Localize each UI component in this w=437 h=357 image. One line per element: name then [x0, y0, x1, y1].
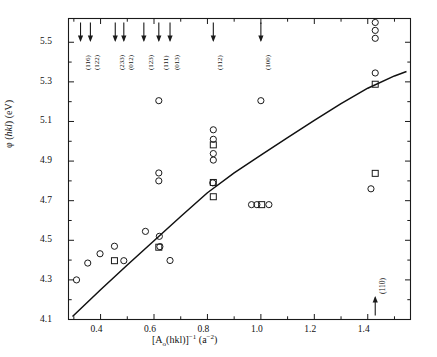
y-axis-label: φ (hkl) (eV)	[3, 100, 14, 148]
figure-container: φ (hkl) (eV) [Ao(hkl)]−1 (a−2) 0.40.60.8…	[0, 0, 437, 357]
x-axis-unit-post: )	[214, 334, 217, 345]
top-arrow-head	[78, 36, 83, 43]
data-point-square	[210, 194, 216, 200]
data-point-circle	[156, 170, 162, 176]
x-axis-label-pre: [A	[152, 334, 163, 345]
y-axis-label-italic: hkl	[3, 124, 14, 136]
bottom-arrow-head	[373, 296, 378, 303]
data-point-circle	[372, 27, 378, 33]
y-tick-label: 4.5	[40, 234, 52, 244]
data-point-circle	[156, 98, 162, 104]
x-axis-unit-sup: −2	[207, 333, 214, 341]
top-arrow-label: (100)	[264, 54, 272, 69]
top-arrow-head	[167, 36, 172, 43]
top-arrow-head	[141, 36, 146, 43]
top-arrow-label: (122)	[93, 54, 101, 69]
x-tick-label: 0.6	[144, 324, 156, 334]
data-point-circle	[258, 98, 264, 104]
top-arrow-label: (111)	[162, 55, 170, 70]
top-arrow-label: (112)	[216, 55, 224, 70]
y-axis-label-post: ) (eV)	[3, 100, 14, 124]
x-axis-label: [Ao(hkl)]−1 (a−2)	[152, 333, 217, 348]
top-arrow-label: (013)	[173, 54, 181, 69]
data-point-circle	[73, 277, 79, 283]
chart-plot-area	[0, 0, 437, 357]
data-point-circle	[111, 243, 117, 249]
data-point-circle	[372, 19, 378, 25]
top-arrow-label: (116)	[84, 55, 92, 70]
top-arrow-head	[88, 36, 93, 43]
data-point-circle	[210, 127, 216, 133]
x-tick-label: 1.4	[358, 324, 370, 334]
top-arrow-label: (233)	[118, 54, 126, 69]
data-point-circle	[266, 202, 272, 208]
data-point-circle	[372, 35, 378, 41]
x-axis-label-mid: (hkl)]	[166, 334, 189, 345]
data-point-circle	[210, 157, 216, 163]
data-point-circle	[372, 70, 378, 76]
y-tick-label: 4.1	[40, 314, 52, 324]
y-tick-label: 4.9	[40, 155, 52, 165]
top-arrow-label: (123)	[147, 54, 155, 69]
x-tick-label: 0.4	[91, 324, 103, 334]
bottom-arrow-label: (110)	[378, 278, 387, 294]
y-tick-label: 5.5	[40, 36, 52, 46]
data-point-circle	[156, 178, 162, 184]
y-tick-label: 5.1	[40, 115, 52, 125]
y-tick-label: 4.7	[40, 195, 52, 205]
data-point-circle	[121, 258, 127, 264]
x-tick-label: 1.0	[251, 324, 263, 334]
data-point-circle	[85, 260, 91, 266]
data-point-square	[111, 258, 117, 264]
top-arrow-head	[113, 36, 118, 43]
y-tick-label: 4.3	[40, 274, 52, 284]
data-point-circle	[368, 186, 374, 192]
x-tick-label: 1.2	[304, 324, 316, 334]
y-tick-label: 5.3	[40, 76, 52, 86]
top-arrow-label: (012)	[127, 54, 135, 69]
data-point-circle	[142, 228, 148, 234]
top-arrow-head	[258, 36, 263, 43]
y-axis-label-pre: φ (	[3, 136, 14, 148]
data-point-circle	[210, 150, 216, 156]
top-arrow-head	[156, 36, 161, 43]
x-tick-label: 0.8	[197, 324, 209, 334]
data-point-square	[372, 170, 378, 176]
data-point-circle	[97, 251, 103, 257]
top-arrow-head	[121, 36, 126, 43]
data-point-circle	[167, 257, 173, 263]
top-arrow-head	[211, 36, 216, 43]
fit-curve	[73, 72, 407, 317]
x-axis-unit-pre: (a	[196, 334, 206, 345]
